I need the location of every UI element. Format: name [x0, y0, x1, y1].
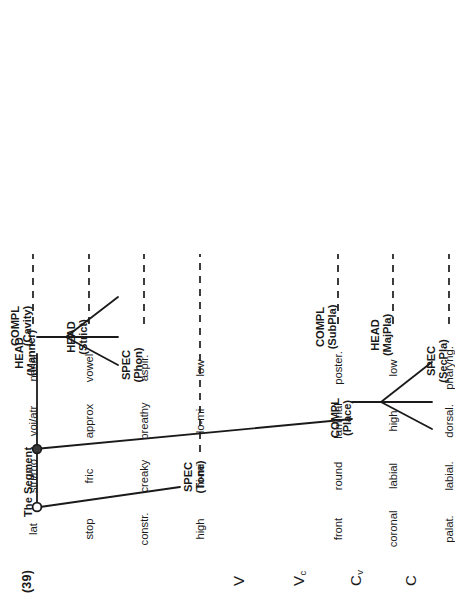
cell-spec_tone-row1: high: [194, 503, 206, 555]
row-header-base: V: [290, 576, 307, 586]
node-spec-phon-line1: SPEC: [120, 350, 132, 380]
node-spec-tone-line1: SPEC: [182, 462, 194, 492]
node-compl-subpla-line1: COMPL: [314, 307, 326, 347]
cell-spec_tone-row2: hi-mi: [194, 450, 206, 502]
edge-root-to-spec-tone: [40, 487, 180, 507]
cell-spec_tone-row3: lo-mi: [194, 395, 206, 447]
cell-spec_secpla-row4: pharyng.: [443, 342, 455, 394]
cell-compl_cavity-row3: voi/atr: [27, 395, 39, 447]
cell-head_majpla-row4: low: [387, 342, 399, 394]
cell-compl_subpla-row3: laminal: [332, 395, 344, 447]
node-head-strict-line1: HEAD: [65, 321, 77, 352]
row-header-2: Cv: [348, 570, 365, 586]
cell-head_strict-row1: stop: [83, 503, 95, 555]
cell-compl_cavity-row2: stri/rho: [27, 450, 39, 502]
row-header-base: C: [402, 575, 419, 586]
node-head-majpla-line1: HEAD: [369, 319, 381, 350]
node-compl-cavity-line1: COMPL: [9, 306, 21, 346]
cell-spec_phon-row3: breathy: [138, 395, 150, 447]
cell-head_strict-row3: approx: [83, 395, 95, 447]
cell-head_strict-row2: fric: [83, 450, 95, 502]
cell-spec_phon-row4: aspir.: [138, 342, 150, 394]
cell-spec_secpla-row1: palat.: [443, 503, 455, 555]
cell-spec_secpla-row3: dorsal.: [443, 395, 455, 447]
cell-head_majpla-row1: coronal: [387, 503, 399, 555]
row-header-base: C: [347, 575, 364, 586]
cell-compl_subpla-row1: front: [332, 503, 344, 555]
row-header-base: V: [230, 576, 247, 586]
cell-spec_phon-row2: creaky: [138, 450, 150, 502]
cell-spec_secpla-row2: labial.: [443, 450, 455, 502]
cell-compl_subpla-row4: poster.: [332, 342, 344, 394]
row-header-3: Vc: [291, 571, 308, 586]
cell-head_strict-row4: vowel: [83, 342, 95, 394]
cell-compl_cavity-row1: lat: [27, 503, 39, 555]
cell-compl_subpla-row2: round: [332, 450, 344, 502]
cell-head_majpla-row2: labial: [387, 450, 399, 502]
cell-head_majpla-row3: high: [387, 395, 399, 447]
cell-spec_tone-row4: low: [194, 342, 206, 394]
cell-spec_phon-row1: constr.: [138, 503, 150, 555]
row-header-1: C: [403, 575, 418, 586]
row-header-4: V: [231, 576, 246, 586]
cell-compl_cavity-row4: nasal: [27, 342, 39, 394]
example-number: (39): [20, 570, 34, 593]
node-spec-secpla-line1: SPEC: [425, 346, 437, 376]
row-header-subscript: c: [297, 571, 308, 576]
row-header-subscript: v: [354, 570, 365, 575]
